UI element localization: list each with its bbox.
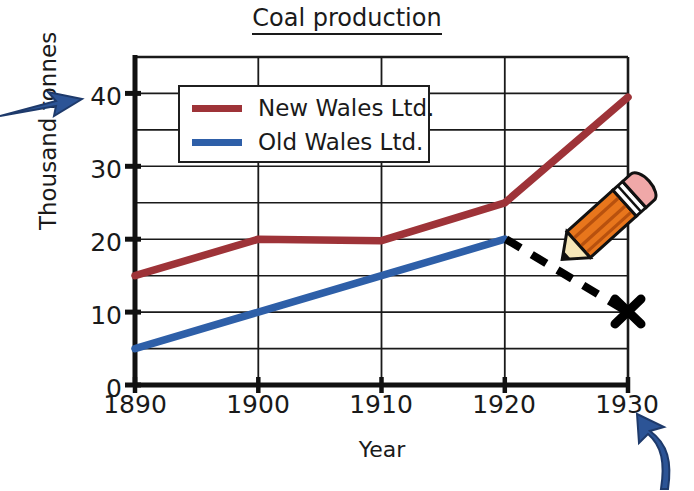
pencil-icon [551, 168, 661, 272]
arrow-bottom-right-icon [637, 414, 669, 489]
legend-entry-new-wales: New Wales Ltd. [180, 91, 428, 125]
legend-label-old-wales: Old Wales Ltd. [258, 129, 423, 155]
plot-area [0, 0, 694, 491]
chart-canvas: Coal production Thousand tonnes Year 0 1… [0, 0, 694, 491]
legend-swatch-old-wales [192, 139, 242, 146]
legend-swatch-new-wales [192, 105, 242, 112]
legend-entry-old-wales: Old Wales Ltd. [180, 125, 428, 159]
chart-legend: New Wales Ltd. Old Wales Ltd. [178, 85, 430, 163]
legend-label-new-wales: New Wales Ltd. [258, 95, 434, 121]
arrow-left-icon [0, 92, 82, 116]
